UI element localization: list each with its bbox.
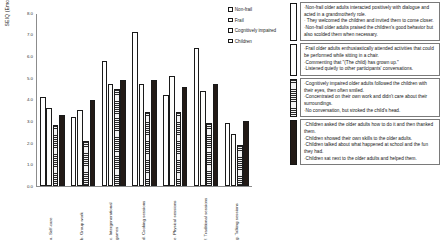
y-axis-tick: 4.0 <box>27 98 33 102</box>
legend-swatch-icon <box>228 39 233 44</box>
bar <box>225 123 231 186</box>
bar <box>213 84 219 186</box>
x-axis-label-slot: b. Group work <box>67 190 98 243</box>
annotation-note: ·Frail older adults enthusiastically att… <box>288 43 440 76</box>
chart-page: SEIQ (Emotion) score ( mean ) 8.07.06.05… <box>0 0 440 243</box>
legend-swatch-icon <box>228 28 233 33</box>
bar <box>114 89 120 186</box>
bar <box>71 117 77 186</box>
bar <box>139 84 145 186</box>
note-box: ·Children asked the older adults how to … <box>300 119 440 165</box>
y-axis-tick: 5.0 <box>27 77 33 81</box>
y-axis-tick: 8.0 <box>27 12 33 16</box>
legend-item[interactable]: Cognitively impaired <box>228 28 286 33</box>
x-axis-label-slot: f. Traditional sessions <box>190 190 221 243</box>
note-line: ·No conversation, but stroked the child'… <box>304 108 436 115</box>
note-box: ·Non-frail older adults interacted posit… <box>300 2 440 41</box>
note-line: ·Listened quietly to other participants'… <box>304 66 436 73</box>
x-axis-label: e. Physical sessions <box>172 192 178 240</box>
bar <box>77 110 83 186</box>
bar-group <box>191 14 222 186</box>
bar <box>108 84 114 186</box>
legend-swatch-icon <box>228 7 233 12</box>
bar <box>53 125 59 186</box>
bar <box>163 95 169 186</box>
bar <box>46 108 52 186</box>
bar-group <box>68 14 99 186</box>
bar <box>40 97 46 186</box>
x-axis-label-slot: g. Talking sessions <box>221 190 252 243</box>
legend-item[interactable]: Non-frail <box>228 7 286 12</box>
bar <box>200 91 206 186</box>
x-axis-label: f. Traditional sessions <box>203 192 209 240</box>
note-line: ·Children showed their own skills to the… <box>304 136 436 143</box>
y-axis-tick: 1.0 <box>27 163 33 167</box>
bar <box>231 134 237 186</box>
bar <box>169 76 175 186</box>
bar <box>206 123 212 186</box>
y-axis-tick: 7.0 <box>27 33 33 37</box>
annotation-panel: ·Non-frail older adults interacted posit… <box>288 2 440 242</box>
plot-area <box>36 14 252 187</box>
y-axis-title: SEIQ (Emotion) score ( mean ) <box>4 0 14 38</box>
note-box: ·Cognitively impaired older adults follo… <box>300 78 440 117</box>
x-axis-label-slot: e. Physical sessions <box>159 190 190 243</box>
x-axis-label-slot: c. Intergenerational games <box>98 190 129 243</box>
x-axis-label-slot: a. Self-care <box>36 190 67 243</box>
bar-chart: SEIQ (Emotion) score ( mean ) 8.07.06.05… <box>0 0 288 243</box>
bar <box>151 80 157 186</box>
x-axis-label: a. Self-care <box>49 192 55 240</box>
bar <box>59 115 65 186</box>
bar <box>90 100 96 187</box>
note-swatch-icon <box>290 44 297 76</box>
note-line: ·Children talked about what happened at … <box>304 142 436 155</box>
note-line: ·Commenting that "(The child) has grown … <box>304 60 436 67</box>
bar <box>243 121 249 186</box>
bar <box>102 61 108 186</box>
bar-groups <box>37 14 252 186</box>
note-line: ·Non-frail older adults praised the chil… <box>304 25 436 38</box>
annotation-note: ·Cognitively impaired older adults follo… <box>288 78 440 117</box>
x-axis-label: d. Cooking sessions <box>141 192 147 240</box>
note-line: ·Non-frail older adults interacted posit… <box>304 5 436 18</box>
y-axis-tick: 2.0 <box>27 142 33 146</box>
note-line: ·Frail older adults enthusiastically att… <box>304 46 436 59</box>
note-line: ·Cognitively impaired older adults follo… <box>304 81 436 94</box>
x-axis-labels: a. Self-careb. Group workc. Intergenerat… <box>36 190 252 243</box>
legend-label: Cognitively impaired <box>235 28 276 33</box>
x-axis-label: c. Intergenerational games <box>108 192 119 240</box>
note-box: ·Frail older adults enthusiastically att… <box>300 43 440 76</box>
note-line: ·Concentrated on their own work and didn… <box>304 94 436 107</box>
bar <box>194 48 200 186</box>
bar-group <box>37 14 68 186</box>
legend-item[interactable]: Frail <box>228 18 286 23</box>
bar-group <box>129 14 160 186</box>
legend-label: Non-frail <box>235 7 252 12</box>
legend-item[interactable]: Children <box>228 39 286 44</box>
note-swatch-icon <box>290 3 297 41</box>
bar <box>176 112 182 186</box>
bar <box>237 145 243 186</box>
note-swatch-icon <box>290 79 297 117</box>
legend-label: Children <box>235 39 252 44</box>
y-axis-tick: 0.0 <box>27 185 33 189</box>
bar-group <box>160 14 191 186</box>
x-axis-label: b. Group work <box>80 192 86 240</box>
y-axis-ticks: 8.07.06.05.04.03.02.01.00.0 <box>15 14 33 187</box>
y-axis-tick: 3.0 <box>27 120 33 124</box>
y-axis-tick: 6.0 <box>27 55 33 59</box>
annotation-note: ·Children asked the older adults how to … <box>288 119 440 165</box>
bar <box>145 112 151 186</box>
bar <box>83 141 89 186</box>
note-line: · They welcomed the children and invited… <box>304 18 436 25</box>
bar <box>182 87 188 186</box>
note-swatch-icon <box>290 120 297 165</box>
note-line: ·Children asked the older adults how to … <box>304 122 436 135</box>
bar-group <box>98 14 129 186</box>
legend-label: Frail <box>235 18 244 23</box>
x-axis-label-slot: d. Cooking sessions <box>129 190 160 243</box>
legend-swatch-icon <box>228 18 233 23</box>
annotation-note: ·Non-frail older adults interacted posit… <box>288 2 440 41</box>
chart-legend: Non-frailFrailCognitively impairedChildr… <box>228 7 286 49</box>
bar <box>132 32 138 186</box>
